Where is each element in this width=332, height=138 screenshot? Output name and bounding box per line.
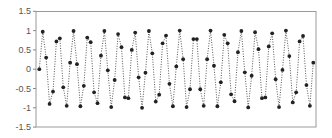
- data-point: [44, 56, 48, 60]
- data-point: [216, 104, 220, 108]
- data-point: [198, 87, 202, 91]
- data-point: [113, 78, 117, 82]
- data-point: [102, 29, 106, 33]
- data-point: [243, 70, 247, 74]
- data-point: [233, 99, 237, 103]
- data-point: [82, 84, 86, 88]
- data-point: [274, 77, 278, 81]
- data-point: [164, 34, 168, 38]
- data-point: [226, 41, 230, 45]
- data-point: [250, 74, 254, 78]
- data-point: [222, 33, 226, 37]
- data-point: [109, 105, 113, 109]
- data-point: [301, 34, 305, 38]
- data-point: [48, 102, 52, 106]
- data-point: [263, 95, 267, 99]
- data-point: [219, 80, 223, 84]
- data-point: [185, 105, 189, 109]
- data-point: [116, 32, 120, 36]
- y-tick-label: -1.5: [15, 122, 31, 132]
- data-point: [41, 30, 45, 34]
- data-point: [298, 40, 302, 44]
- data-point: [236, 50, 240, 54]
- data-point: [150, 51, 154, 55]
- y-tick-label: -0.5: [15, 84, 31, 94]
- data-point: [277, 105, 281, 109]
- data-point: [75, 62, 79, 66]
- data-point: [270, 31, 274, 35]
- data-point: [157, 93, 161, 97]
- data-point: [174, 65, 178, 69]
- data-point: [257, 47, 261, 51]
- y-tick-label: 0: [26, 64, 31, 74]
- data-point: [106, 68, 110, 72]
- data-point: [96, 101, 100, 105]
- data-point: [58, 36, 62, 40]
- data-point: [178, 29, 182, 33]
- data-point: [188, 87, 192, 91]
- data-point: [246, 106, 250, 110]
- data-point: [260, 96, 264, 100]
- data-point: [192, 37, 196, 41]
- y-tick-label: -1: [23, 103, 31, 113]
- data-point: [209, 29, 213, 33]
- data-point: [181, 57, 185, 61]
- y-axis: 1.510.50-0.5-1-1.5: [15, 6, 36, 132]
- data-point: [37, 67, 41, 71]
- data-point: [281, 68, 285, 72]
- data-point: [267, 45, 271, 49]
- data-point: [171, 104, 175, 108]
- y-tick-label: 1.5: [18, 6, 31, 16]
- data-point: [239, 29, 243, 33]
- y-tick-label: 0.5: [18, 45, 31, 55]
- data-point: [89, 40, 93, 44]
- data-point: [133, 31, 137, 35]
- data-point: [195, 37, 199, 41]
- series-line: [39, 31, 313, 108]
- line-chart: 1.510.50-0.5-1-1.5: [0, 0, 332, 138]
- data-point: [85, 36, 89, 40]
- data-point: [154, 100, 158, 104]
- data-point: [168, 82, 172, 86]
- data-point: [311, 61, 315, 65]
- data-point: [308, 104, 312, 108]
- data-point: [212, 64, 216, 68]
- data-point: [291, 101, 295, 105]
- data-point: [120, 45, 124, 49]
- data-point: [51, 90, 55, 94]
- data-point: [202, 104, 206, 108]
- data-point: [130, 48, 134, 52]
- data-point: [147, 29, 151, 33]
- data-point: [229, 92, 233, 96]
- data-point: [61, 85, 65, 89]
- data-point: [161, 41, 165, 45]
- data-point: [253, 30, 257, 34]
- data-point: [205, 57, 209, 61]
- data-point: [137, 75, 141, 79]
- data-point: [92, 90, 96, 94]
- data-point: [99, 54, 103, 58]
- data-point: [284, 29, 288, 33]
- y-tick-label: 1: [26, 26, 31, 36]
- data-point: [294, 90, 298, 94]
- data-point: [305, 83, 309, 87]
- data-point: [126, 96, 130, 100]
- data-point: [123, 95, 127, 99]
- data-point: [55, 40, 59, 44]
- data-point: [79, 104, 83, 108]
- data-point: [140, 106, 144, 110]
- data-point: [144, 71, 148, 75]
- data-point: [65, 104, 69, 108]
- data-point: [68, 61, 72, 65]
- data-point: [72, 29, 76, 33]
- data-point: [287, 54, 291, 58]
